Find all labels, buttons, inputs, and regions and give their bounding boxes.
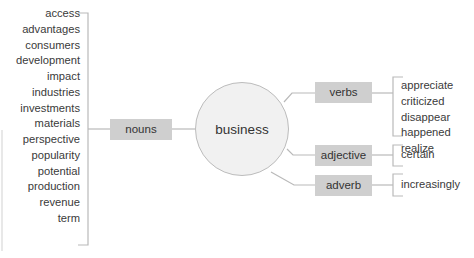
noun-word: term	[16, 211, 80, 227]
noun-word: materials	[16, 116, 80, 132]
verb-word: criticized	[401, 94, 453, 110]
adjective-word-list: certain	[401, 147, 435, 163]
noun-word: access	[16, 6, 80, 22]
noun-word: popularity	[16, 148, 80, 164]
noun-word: investments	[16, 101, 80, 117]
noun-word: potential	[16, 164, 80, 180]
noun-word: production	[16, 179, 80, 195]
adverb-word: increasingly	[401, 177, 460, 193]
adjective-word: certain	[401, 147, 435, 163]
nouns-word-list: access advantages consumers development …	[16, 6, 80, 227]
noun-word: impact	[16, 69, 80, 85]
center-label: business	[215, 122, 268, 137]
noun-word: revenue	[16, 195, 80, 211]
noun-word: perspective	[16, 132, 80, 148]
nouns-box: nouns	[110, 119, 172, 140]
noun-word: advantages	[16, 22, 80, 38]
noun-word: consumers	[16, 38, 80, 54]
noun-word: industries	[16, 85, 80, 101]
center-node: business	[195, 82, 289, 176]
verbs-box: verbs	[315, 82, 372, 103]
verb-word: disappear	[401, 110, 453, 126]
noun-word: development	[16, 53, 80, 69]
verb-word: happened	[401, 125, 453, 141]
adjective-box: adjective	[315, 145, 372, 166]
adverb-box: adverb	[315, 175, 372, 196]
verbs-word-list: appreciate criticized disappear happened…	[401, 78, 453, 157]
verb-word: appreciate	[401, 78, 453, 94]
adverb-word-list: increasingly	[401, 177, 460, 193]
